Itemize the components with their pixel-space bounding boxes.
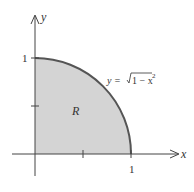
- curve-equation-label: y = 1 − x 2: [106, 72, 156, 86]
- region-label: R: [71, 104, 80, 118]
- x-tick-label-one: 1: [129, 163, 135, 175]
- region-r: [35, 58, 131, 154]
- diagram-canvas: y x 1 1 R y = 1 − x 2: [0, 0, 194, 192]
- y-tick-label-one: 1: [22, 52, 28, 64]
- y-axis-label: y: [40, 10, 47, 24]
- equation-exponent: 2: [152, 72, 156, 80]
- equation-lhs: y =: [106, 75, 123, 86]
- equation-radicand: 1 − x: [132, 75, 153, 86]
- x-axis-label: x: [180, 147, 187, 161]
